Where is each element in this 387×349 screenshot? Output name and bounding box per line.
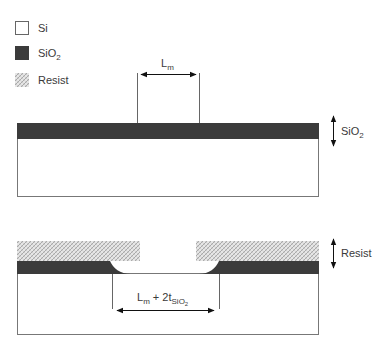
lm2t-label-plus: + 2t [150, 291, 172, 303]
resist-block-left [17, 241, 140, 261]
legend-label-resist: Resist [38, 75, 69, 86]
sio2-layer-bottom-right [199, 261, 319, 274]
lm2t-label-sub2-sub: 2 [185, 301, 188, 307]
legend [15, 22, 29, 88]
legend-text-si: Si [38, 22, 48, 34]
sio2-thickness-label: SiO2 [341, 126, 364, 140]
sio2-layer-bottom-left [17, 261, 131, 274]
si-substrate-top [18, 139, 319, 197]
sio2-layer-top [17, 123, 319, 139]
lm2t-label-sub2-text: SiO [172, 297, 185, 306]
legend-label-si: Si [38, 23, 48, 34]
lm2t-label-sub2: SiO2 [172, 297, 189, 306]
lm-label: Lm [161, 58, 174, 72]
legend-swatch-sio2 [15, 46, 29, 60]
resist-block-right [196, 241, 319, 261]
legend-text-sio2: SiO [38, 47, 56, 59]
legend-text-sio2-sub: 2 [56, 53, 60, 62]
lm-plus-2t-label: Lm + 2tSiO2 [137, 292, 188, 307]
legend-label-sio2: SiO2 [38, 48, 61, 62]
sio2-thickness-label-main: SiO [341, 125, 359, 137]
resist-thickness-label-text: Resist [341, 247, 372, 259]
top-structure [17, 73, 334, 197]
legend-swatch-si [16, 22, 29, 35]
legend-text-resist: Resist [38, 74, 69, 86]
legend-swatch-resist [15, 73, 29, 87]
bottom-structure [17, 239, 334, 335]
lm2t-label-sub: m [143, 297, 150, 306]
sio2-thickness-label-sub: 2 [359, 131, 363, 140]
lm-label-sub: m [167, 63, 174, 72]
resist-thickness-label: Resist [341, 248, 372, 259]
